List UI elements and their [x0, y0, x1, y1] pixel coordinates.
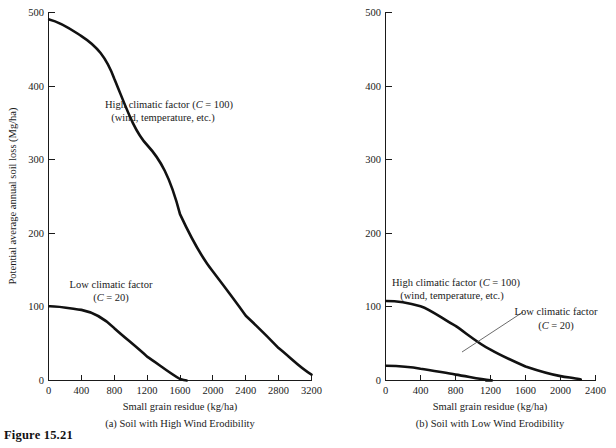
panel-b-curve-low-climatic: [386, 366, 492, 381]
panel-a-xtick-2400: 2400: [235, 385, 256, 396]
panel-b-leader-line-low: [462, 312, 523, 352]
panel-b-x-axis-title: Small grain residue (kg/ha): [433, 401, 548, 413]
panel-a-ytick-500: 500: [28, 7, 44, 18]
panel-a-x-axis-title: Small grain residue (kg/ha): [123, 401, 238, 413]
panel-a-y-axis-title: Potential average annual soil loss (Mg/h…: [7, 107, 19, 285]
figure-number: Figure 15.21: [4, 428, 73, 443]
panel-a-xtick-800: 800: [106, 385, 122, 396]
panel-b-xtick-1200: 1200: [480, 385, 501, 396]
panel-b-ytick-400: 400: [365, 81, 381, 92]
panel-a-ytick-300: 300: [28, 154, 44, 165]
panel-b-annot-low-line1: Low climatic factor: [515, 306, 598, 317]
panel-b-annot-high-line2: (wind, temperature, etc.): [400, 290, 504, 302]
panel-b: 500 400 300 200 100 0 0 400 800 1200 160…: [365, 7, 606, 430]
panel-a-xtick-2800: 2800: [268, 385, 289, 396]
panel-b-caption: (b) Soil with Low Wind Erodibility: [416, 418, 565, 430]
figure-container: 500 400 300 200 100 0 0 400 800 120: [0, 0, 616, 448]
panel-b-ytick-0: 0: [376, 375, 381, 386]
panel-a-xtick-3200: 3200: [301, 385, 322, 396]
panel-b-annot-low-line2: (C = 20): [538, 320, 574, 332]
panel-a-ytick-100: 100: [28, 301, 44, 312]
figure-svg: 500 400 300 200 100 0 0 400 800 120: [0, 0, 616, 448]
panel-a-ytick-0: 0: [39, 375, 44, 386]
panel-a: 500 400 300 200 100 0 0 400 800 120: [7, 7, 322, 430]
panel-a-curve-low-climatic: [49, 306, 187, 380]
panel-a-annot-high-line2: (wind, temperature, etc.): [111, 112, 215, 124]
panel-b-xtick-2400: 2400: [585, 385, 606, 396]
panel-a-xtick-2000: 2000: [202, 385, 223, 396]
panel-b-xtick-2000: 2000: [550, 385, 571, 396]
panel-b-ytick-200: 200: [365, 228, 381, 239]
panel-a-y-ticks: [49, 13, 55, 381]
panel-b-xtick-1600: 1600: [515, 385, 536, 396]
panel-b-xtick-400: 400: [413, 385, 429, 396]
panel-a-xtick-400: 400: [74, 385, 90, 396]
panel-a-caption: (a) Soil with High Wind Erodibility: [105, 418, 255, 430]
panel-b-xtick-800: 800: [448, 385, 464, 396]
panel-a-ytick-400: 400: [28, 81, 44, 92]
panel-b-ytick-500: 500: [365, 7, 381, 18]
panel-a-xtick-1600: 1600: [170, 385, 191, 396]
panel-b-y-ticks: [386, 13, 392, 381]
panel-a-curve-high-climatic: [49, 19, 311, 374]
panel-b-annot-high-line1: High climatic factor (C = 100): [392, 277, 521, 289]
panel-b-xtick-0: 0: [383, 385, 388, 396]
panel-b-ytick-100: 100: [365, 301, 381, 312]
panel-a-xtick-1200: 1200: [137, 385, 158, 396]
panel-a-ytick-200: 200: [28, 228, 44, 239]
panel-a-annot-low-line1: Low climatic factor: [70, 279, 153, 290]
panel-a-xtick-0: 0: [46, 385, 51, 396]
panel-b-ytick-300: 300: [365, 154, 381, 165]
panel-a-annot-high-line1: High climatic factor (C = 100): [105, 99, 234, 111]
panel-a-annot-low-line2: (C = 20): [93, 292, 129, 304]
